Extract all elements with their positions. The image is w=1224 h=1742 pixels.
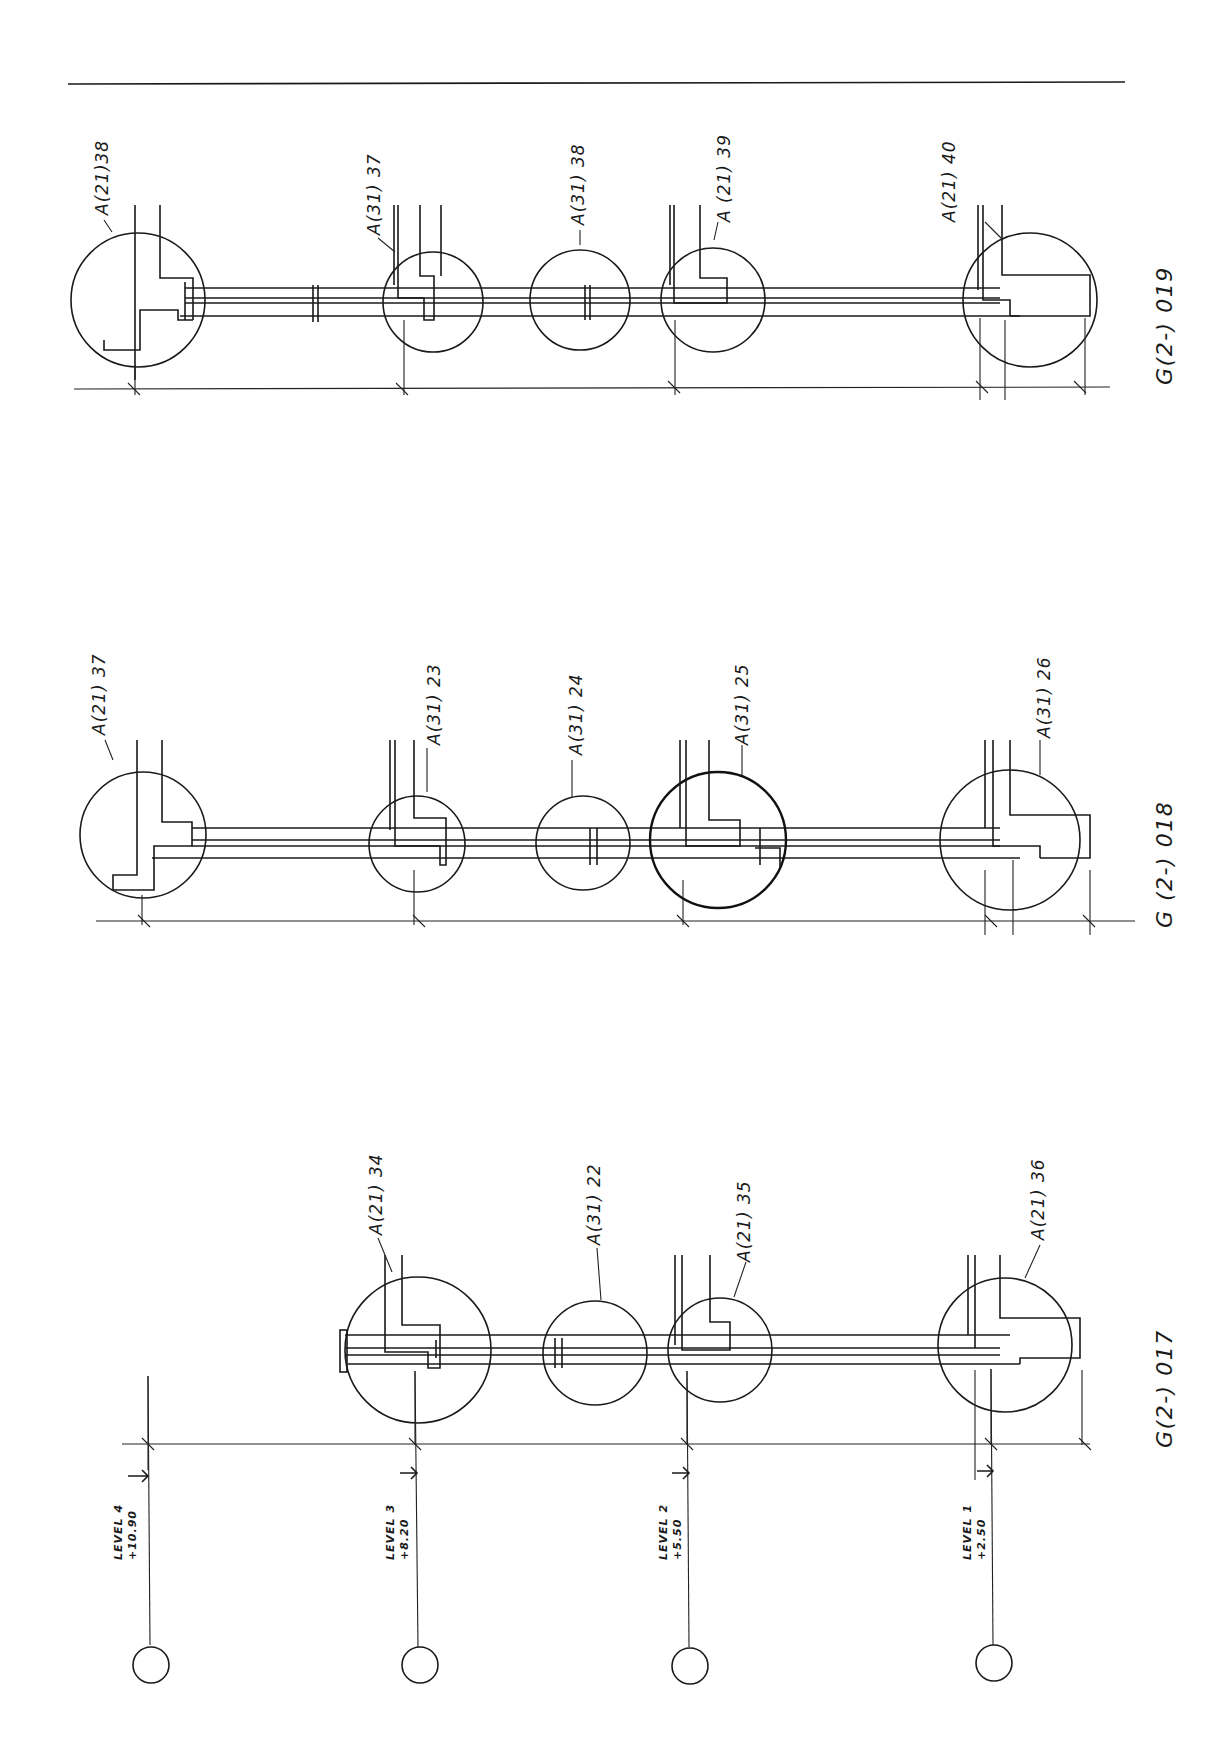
svg-text:LEVEL 2: LEVEL 2 (657, 1504, 670, 1560)
level-3-elevation: +8.20 (398, 1519, 411, 1560)
detail-label: A(21) 40 (939, 140, 959, 223)
detail-a21-39-circle (661, 248, 765, 352)
level-1-bubble (976, 1645, 1012, 1681)
level-2-name: LEVEL 2 (657, 1504, 670, 1560)
detail-label: A(31) 24 (566, 673, 586, 756)
svg-text:+8.20: +8.20 (398, 1519, 411, 1560)
level-labels: LEVEL 4 +10.90 LEVEL 3 +8.20 LEVEL 2 +5.… (112, 1504, 988, 1560)
detail-label: A(21) 34 (366, 1153, 386, 1236)
detail-label: A(21) 37 (89, 653, 109, 736)
level-2-bubble (672, 1648, 708, 1684)
detail-label: A(31) 37 (364, 153, 384, 236)
svg-text:+10.90: +10.90 (126, 1510, 139, 1560)
detail-label: A(21) 35 (734, 1180, 754, 1263)
detail-a21-36-circle (938, 1278, 1072, 1412)
level-grid (133, 1369, 1012, 1684)
level-3-name: LEVEL 3 (384, 1504, 397, 1560)
svg-text:LEVEL 3: LEVEL 3 (384, 1504, 397, 1560)
svg-text:+5.50: +5.50 (671, 1519, 684, 1560)
level-2-elevation: +5.50 (671, 1519, 684, 1560)
section-id-g018: G (2-) 018 (1152, 801, 1177, 928)
detail-label: A(31) 38 (568, 143, 588, 226)
detail-label: A(31) 25 (732, 663, 752, 746)
detail-a31-22-circle (543, 1301, 647, 1405)
detail-a31-23-circle (369, 796, 465, 892)
section-g019: A(21)38 A(31) 37 A(31) 38 A (21) 39 A(21… (71, 134, 1177, 400)
level-3-bubble (402, 1647, 438, 1683)
section-id-g017: G(2-) 017 (1152, 1329, 1177, 1448)
detail-label: A(31) 26 (1034, 656, 1054, 739)
level-1-elevation: +2.50 (975, 1519, 988, 1560)
level-4-elevation: +10.90 (126, 1510, 139, 1560)
section-g018: A(21) 37 A(31) 23 A(31) 24 A(31) 25 A(31… (80, 653, 1177, 935)
level-arrows (128, 1465, 993, 1482)
detail-a31-24-circle (536, 796, 630, 890)
wall-section-drawing: LEVEL 4 +10.90 LEVEL 3 +8.20 LEVEL 2 +5.… (0, 0, 1224, 1742)
level-4-bubble (133, 1647, 169, 1683)
detail-label: A(31) 22 (584, 1163, 604, 1246)
detail-label: A(31) 23 (424, 663, 444, 746)
detail-label: A(21) 36 (1028, 1158, 1048, 1241)
svg-text:LEVEL 1: LEVEL 1 (961, 1504, 974, 1560)
section-g017: A(21) 34 A(31) 22 A(21) 35 A(21) 36 G(2-… (122, 1153, 1177, 1480)
level-4-name: LEVEL 4 (112, 1504, 125, 1560)
detail-label: A (21) 39 (714, 134, 734, 223)
detail-a21-34-circle (345, 1277, 491, 1423)
sheet-border-line (68, 82, 1125, 84)
detail-a31-38-circle (530, 250, 630, 350)
svg-text:LEVEL 4: LEVEL 4 (112, 1504, 125, 1560)
svg-text:+2.50: +2.50 (975, 1519, 988, 1560)
detail-label: A(21)38 (92, 140, 112, 216)
level-1-name: LEVEL 1 (961, 1504, 974, 1560)
section-id-g019: G(2-) 019 (1152, 266, 1177, 385)
detail-a21-37-circle (80, 772, 206, 898)
